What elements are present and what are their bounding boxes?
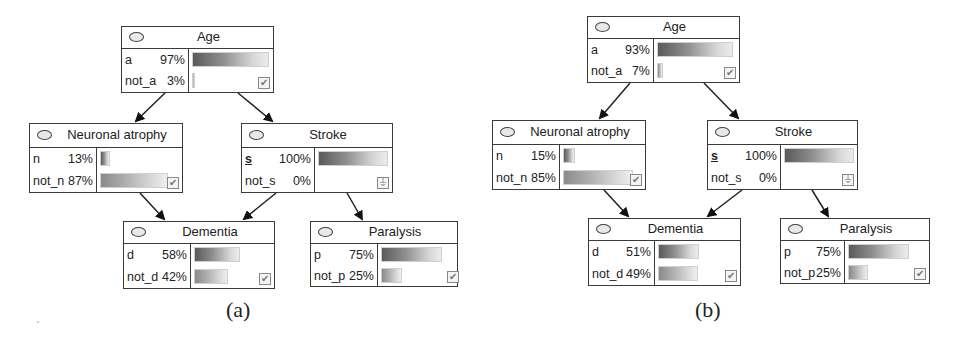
state-row: s 100%: [708, 146, 780, 166]
evidence-icon[interactable]: ⏚: [842, 174, 854, 186]
node-title: Stroke: [734, 124, 853, 139]
node-header: Paralysis: [781, 219, 929, 241]
state-row: not_a 7%: [588, 61, 653, 81]
probability-bar: [658, 266, 698, 281]
node-header: Stroke: [708, 121, 857, 145]
node-title: Dementia: [615, 221, 736, 236]
state-percent: 15%: [531, 146, 556, 166]
probability-bar: [784, 148, 854, 163]
state-percent: 7%: [632, 61, 650, 81]
node-header: Dementia: [589, 219, 740, 241]
state-percent: 25%: [816, 263, 841, 283]
probability-bar: [657, 63, 663, 78]
state-row: not_s 0%: [708, 168, 780, 188]
state-name: d: [592, 242, 599, 262]
panel-caption: (b): [695, 297, 721, 323]
state-name: a: [591, 40, 598, 60]
check-icon[interactable]: ✔: [630, 174, 642, 186]
state-row: n 15%: [493, 146, 559, 166]
state-name: not_s: [711, 168, 742, 188]
node-dementia[interactable]: Dementia d 51% not_d 49% ✔: [588, 218, 741, 286]
state-name: not_p: [784, 263, 815, 283]
state-name: not_d: [592, 264, 623, 284]
node-oval-icon: [500, 127, 515, 137]
state-name: n: [496, 146, 503, 166]
check-icon[interactable]: ✔: [724, 67, 736, 79]
state-row: not_p 25%: [781, 263, 844, 283]
node-header: Neuronal atrophy: [493, 121, 645, 145]
check-icon[interactable]: ✔: [725, 270, 737, 282]
state-name: p: [784, 242, 791, 262]
node-oval-icon: [596, 224, 611, 234]
node-oval-icon: [715, 127, 730, 137]
probability-bar: [848, 244, 909, 259]
node-stroke[interactable]: Stroke s 100% not_s 0% ⏚: [707, 120, 858, 190]
state-percent: 0%: [759, 168, 777, 188]
probability-bar: [563, 170, 633, 185]
state-percent: 85%: [531, 168, 556, 188]
node-age[interactable]: Age a 93% not_a 7% ✔: [587, 16, 740, 83]
node-oval-icon: [595, 22, 610, 32]
state-percent: 51%: [626, 242, 651, 262]
state-name-evidence: s: [711, 146, 718, 166]
state-row: not_n 85%: [493, 168, 559, 188]
state-percent: 100%: [745, 146, 777, 166]
state-percent: 75%: [816, 242, 841, 262]
node-title: Paralysis: [807, 221, 925, 236]
state-percent: 93%: [625, 40, 650, 60]
node-header: Age: [588, 17, 739, 39]
probability-bar: [848, 265, 868, 280]
state-row: d 51%: [589, 242, 654, 262]
probability-bar: [657, 42, 733, 57]
node-neuronal-atrophy[interactable]: Neuronal atrophy n 15% not_n 85% ✔: [492, 120, 646, 190]
node-title: Age: [614, 19, 735, 34]
probability-bar: [563, 148, 575, 163]
node-paralysis[interactable]: Paralysis p 75% not_p 25% ✔: [780, 218, 930, 284]
state-percent: 49%: [626, 264, 651, 284]
state-row: a 93%: [588, 40, 653, 60]
state-row: not_d 49%: [589, 264, 654, 284]
node-title: Neuronal atrophy: [519, 124, 641, 139]
state-name: not_a: [591, 61, 622, 81]
panel-b: Age a 93% not_a 7% ✔ Neuronal atrophy: [0, 0, 954, 340]
state-row: p 75%: [781, 242, 844, 262]
check-icon[interactable]: ✔: [914, 268, 926, 280]
node-oval-icon: [788, 224, 803, 234]
state-name: not_n: [496, 168, 527, 188]
probability-bar: [658, 244, 699, 259]
